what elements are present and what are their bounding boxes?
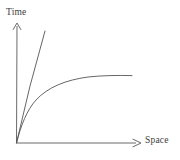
series-concave-saturating-curve bbox=[17, 75, 133, 143]
y-axis-line bbox=[17, 26, 18, 143]
series-steep-linear-curve bbox=[17, 31, 46, 143]
figure-root: Time Space bbox=[0, 0, 180, 160]
y-axis-label: Time bbox=[6, 8, 27, 18]
x-axis-label: Space bbox=[145, 136, 169, 146]
